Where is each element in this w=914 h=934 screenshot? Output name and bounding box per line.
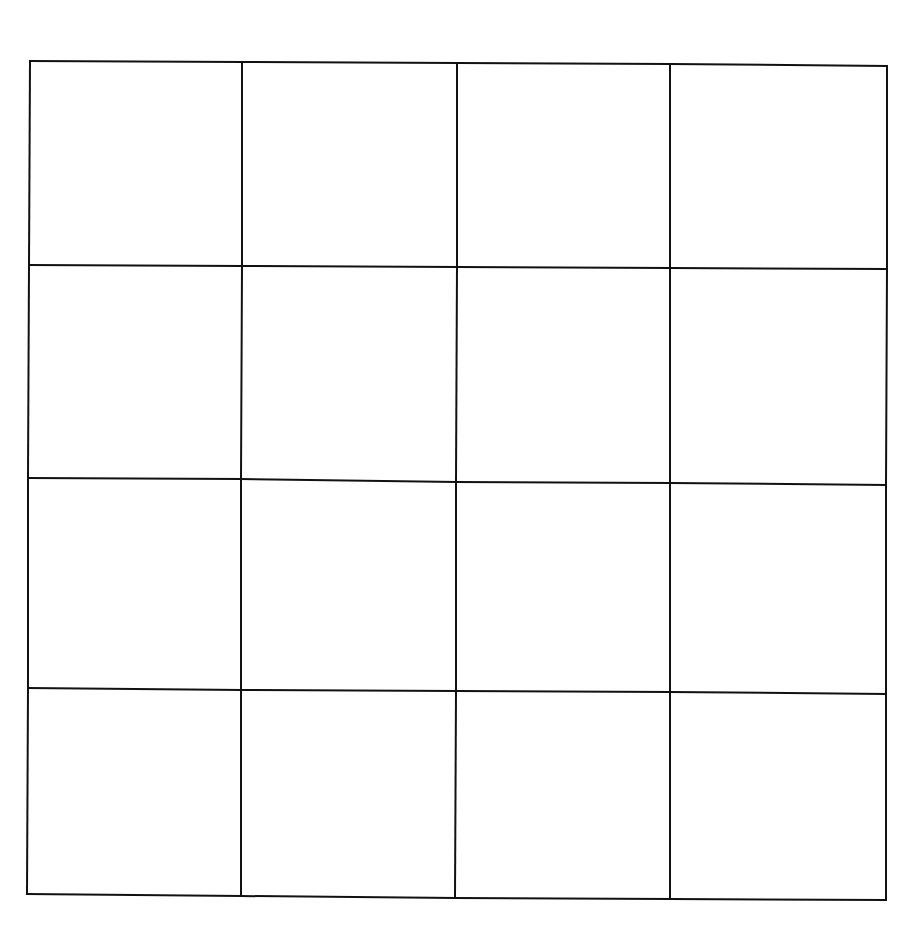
grid-horizontal-line xyxy=(670,64,887,66)
grid-horizontal-line xyxy=(670,692,886,694)
grid-horizontal-line xyxy=(455,898,670,899)
grid-horizontal-line xyxy=(670,483,886,485)
grid-horizontal-line xyxy=(29,265,242,266)
grid-horizontal-line xyxy=(241,896,455,898)
grid-vertical-line xyxy=(28,265,29,478)
grid-horizontal-line xyxy=(670,268,887,269)
grid-vertical-line xyxy=(456,267,457,482)
grid-horizontal-line xyxy=(242,62,457,63)
grid-horizontal-line xyxy=(30,61,242,62)
grid-horizontal-line xyxy=(242,266,457,267)
grid-horizontal-line xyxy=(456,691,670,692)
grid-horizontal-line xyxy=(28,688,241,690)
grid-horizontal-line xyxy=(27,894,241,896)
grid-horizontal-line xyxy=(457,267,670,268)
grid-vertical-line xyxy=(29,61,30,265)
empty-grid xyxy=(0,0,914,934)
grid-lines xyxy=(27,61,887,900)
grid-horizontal-line xyxy=(28,478,241,479)
grid-horizontal-line xyxy=(456,482,670,483)
grid-horizontal-line xyxy=(241,479,456,482)
grid-vertical-line xyxy=(886,269,887,485)
grid-vertical-line xyxy=(241,266,242,479)
grid-vertical-line xyxy=(455,691,456,898)
grid-horizontal-line xyxy=(670,899,886,900)
grid-vertical-line xyxy=(27,688,28,894)
grid-horizontal-line xyxy=(241,690,456,691)
grid-horizontal-line xyxy=(457,63,670,64)
